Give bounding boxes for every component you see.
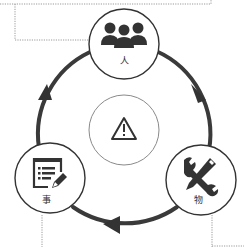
dotted-connector-top	[0, 0, 211, 4]
node-ren: 人	[89, 9, 159, 79]
node-wu: 物	[166, 145, 236, 215]
dotted-connector-top-left	[15, 4, 89, 40]
node-label-wu: 物	[194, 194, 203, 205]
arc-wu-to-shi	[73, 207, 177, 223]
node-label-shi: 事	[42, 194, 51, 205]
node-label-ren: 人	[120, 56, 129, 66]
node-shi: 事	[15, 143, 85, 213]
center-node	[89, 95, 159, 165]
arrow-bottom-icon	[103, 216, 120, 234]
people-group-icon	[101, 23, 147, 49]
cycle-diagram: 人 事 物	[0, 0, 244, 247]
